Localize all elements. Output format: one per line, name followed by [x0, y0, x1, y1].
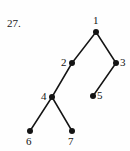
tree-edge-4-6 [30, 97, 52, 131]
tree-edge-1-2 [72, 32, 96, 63]
figure-canvas: 27. 1234567 [0, 0, 130, 151]
tree-node-5 [90, 93, 96, 99]
tree-node-label-3: 3 [120, 57, 126, 68]
tree-node-4 [49, 94, 55, 100]
tree-edge-1-3 [96, 32, 116, 63]
tree-node-label-1: 1 [93, 15, 99, 26]
tree-node-label-2: 2 [61, 57, 67, 68]
tree-node-7 [69, 128, 75, 134]
tree-node-label-4: 4 [41, 91, 47, 102]
tree-node-label-5: 5 [97, 90, 103, 101]
tree-node-1 [93, 29, 99, 35]
tree-edge-2-4 [52, 63, 72, 97]
tree-node-3 [113, 60, 119, 66]
tree-graph [0, 0, 130, 151]
tree-node-label-6: 6 [26, 136, 32, 147]
edge-layer [30, 32, 116, 131]
tree-edge-4-7 [52, 97, 72, 131]
tree-node-6 [27, 128, 33, 134]
tree-node-2 [69, 60, 75, 66]
tree-node-label-7: 7 [68, 136, 74, 147]
node-layer [27, 29, 119, 134]
